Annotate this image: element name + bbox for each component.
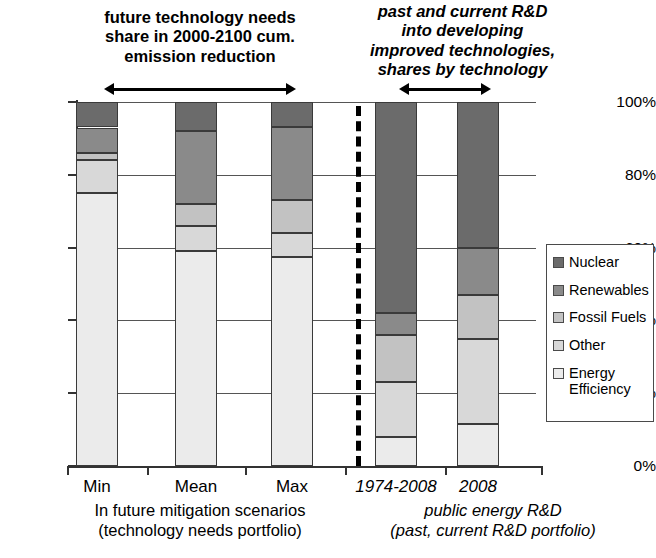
- bar-max[interactable]: [271, 102, 313, 466]
- legend-swatch-icon: [553, 285, 564, 296]
- bar-segment-fossil-fuels[interactable]: [375, 335, 417, 382]
- annotation-right-text: past and current R&D into developing imp…: [355, 2, 570, 80]
- section-divider: [356, 106, 361, 466]
- span-arrow-future-needs-icon: [104, 82, 296, 96]
- x-tick-mark: [147, 466, 149, 475]
- legend-item-nuclear[interactable]: Nuclear: [553, 254, 649, 271]
- x-tick-mark: [245, 466, 247, 475]
- y-tick-label: 0%: [594, 457, 656, 475]
- annotation-right-line-4: shares by technology: [355, 60, 570, 79]
- x-tick-mark: [445, 466, 447, 475]
- x-tick-mark: [67, 466, 69, 475]
- bar-segment-fossil-fuels[interactable]: [175, 204, 217, 226]
- annotation-left-line-3: emission reduction: [55, 47, 345, 66]
- y-tick-label: 80%: [594, 166, 656, 184]
- span-arrow-rnd-icon: [399, 82, 491, 96]
- annotation-right-line-1: past and current R&D: [355, 2, 570, 21]
- annotation-right-line-2: into developing: [355, 21, 570, 40]
- legend: NuclearRenewablesFossil FuelsOtherEnergy…: [546, 244, 654, 422]
- bar-segment-nuclear[interactable]: [175, 102, 217, 131]
- legend-item-other[interactable]: Other: [553, 337, 649, 354]
- group-caption-line: (past, current R&D portfolio): [330, 520, 656, 540]
- legend-item-fossil-fuels[interactable]: Fossil Fuels: [553, 309, 649, 326]
- bar-min[interactable]: [76, 102, 118, 466]
- bar-segment-fossil-fuels[interactable]: [76, 153, 118, 160]
- x-axis-line: [67, 466, 542, 468]
- legend-swatch-icon: [553, 340, 564, 351]
- bar-segment-other[interactable]: [271, 233, 313, 257]
- legend-swatch-icon: [553, 368, 564, 379]
- legend-label: Other: [569, 337, 605, 354]
- group-caption-line: (technology needs portfolio): [35, 520, 365, 540]
- bar-mean[interactable]: [175, 102, 217, 466]
- bar-segment-nuclear[interactable]: [76, 102, 118, 127]
- bar-segment-energy-efficiency[interactable]: [175, 251, 217, 466]
- bar-1974-2008[interactable]: [375, 102, 417, 466]
- x-tick-mark: [345, 466, 347, 475]
- legend-swatch-icon: [553, 312, 564, 323]
- bar-segment-renewables[interactable]: [271, 127, 313, 200]
- bar-segment-renewables[interactable]: [457, 248, 499, 295]
- bar-segment-other[interactable]: [457, 339, 499, 425]
- legend-label: Renewables: [569, 282, 649, 299]
- bar-segment-nuclear[interactable]: [457, 102, 499, 248]
- y-tick-label: 100%: [594, 93, 656, 111]
- bar-segment-fossil-fuels[interactable]: [271, 200, 313, 233]
- stacked-bar-chart: future technology needs share in 2000-21…: [0, 0, 656, 558]
- group-caption-rnd: public energy R&D(past, current R&D port…: [330, 500, 656, 540]
- bar-segment-renewables[interactable]: [76, 128, 118, 153]
- legend-item-renewables[interactable]: Renewables: [553, 282, 649, 299]
- bar-segment-energy-efficiency[interactable]: [271, 257, 313, 466]
- legend-label: Fossil Fuels: [569, 309, 646, 326]
- bar-segment-fossil-fuels[interactable]: [457, 295, 499, 339]
- group-caption-line: In future mitigation scenarios: [35, 500, 365, 520]
- legend-swatch-icon: [553, 257, 564, 268]
- bar-segment-nuclear[interactable]: [271, 102, 313, 127]
- bar-segment-energy-efficiency[interactable]: [76, 193, 118, 466]
- x-tick-mark: [541, 466, 543, 475]
- bar-segment-other[interactable]: [76, 160, 118, 193]
- bar-segment-renewables[interactable]: [175, 131, 217, 204]
- legend-label: Energy Efficiency: [569, 365, 631, 398]
- plot-area: [77, 102, 536, 466]
- legend-item-energy-efficiency[interactable]: Energy Efficiency: [553, 365, 649, 398]
- bar-segment-energy-efficiency[interactable]: [375, 437, 417, 466]
- bar-2008[interactable]: [457, 102, 499, 466]
- bar-segment-renewables[interactable]: [375, 313, 417, 335]
- group-caption-line: public energy R&D: [330, 500, 656, 520]
- annotation-right-line-3: improved technologies,: [355, 41, 570, 60]
- bar-segment-other[interactable]: [175, 226, 217, 251]
- annotation-left-text: future technology needs share in 2000-21…: [55, 8, 345, 66]
- category-label-2008: 2008: [408, 477, 548, 497]
- bar-segment-other[interactable]: [375, 382, 417, 437]
- legend-label: Nuclear: [569, 254, 619, 271]
- annotation-left-line-2: share in 2000-2100 cum.: [55, 27, 345, 46]
- bar-segment-energy-efficiency[interactable]: [457, 424, 499, 466]
- annotation-left-line-1: future technology needs: [55, 8, 345, 27]
- group-caption-scenarios: In future mitigation scenarios(technolog…: [35, 500, 365, 540]
- bar-segment-nuclear[interactable]: [375, 102, 417, 313]
